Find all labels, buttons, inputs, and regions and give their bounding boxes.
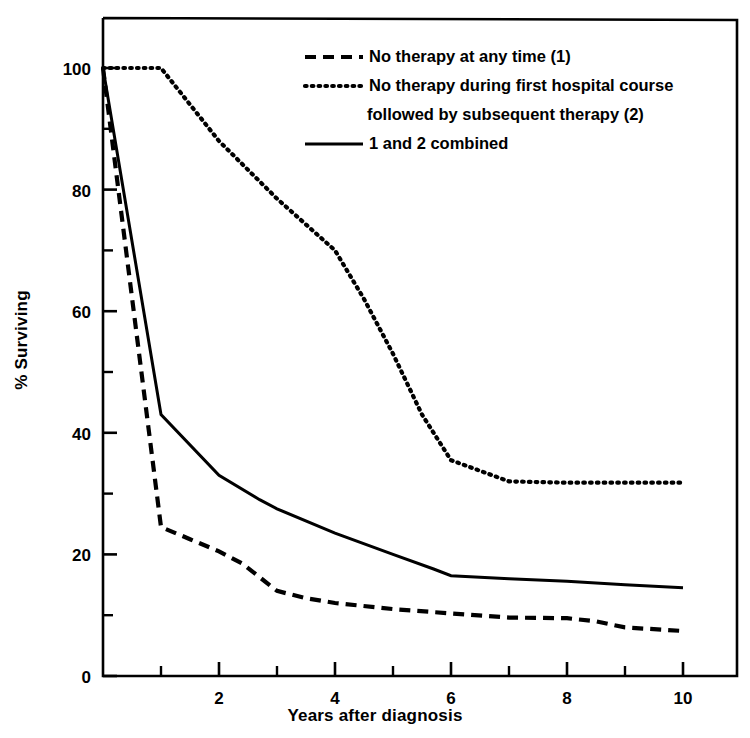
y-tick-label: 0 xyxy=(82,668,91,687)
chart-canvas: 020406080100 246810 No therapy at any ti… xyxy=(0,0,750,738)
legend-label-4: 1 and 2 combined xyxy=(369,134,508,152)
y-tick-label: 80 xyxy=(72,182,91,201)
series-line-2 xyxy=(103,68,683,483)
data-series-layer xyxy=(103,68,683,631)
y-axis-tick-labels: 020406080100 xyxy=(63,60,91,687)
legend-label-3: followed by subsequent therapy (2) xyxy=(367,105,644,123)
series-line-1 xyxy=(103,68,683,631)
legend-label-1: No therapy at any time (1) xyxy=(369,47,571,65)
y-axis-label: % Surviving xyxy=(12,290,31,390)
chart-legend: No therapy at any time (1)No therapy dur… xyxy=(305,47,673,152)
x-axis-label: Years after diagnosis xyxy=(0,706,750,726)
y-tick-label: 40 xyxy=(72,425,91,444)
y-tick-label: 60 xyxy=(72,303,91,322)
y-tick-label: 20 xyxy=(72,546,91,565)
y-tick-label: 100 xyxy=(63,60,91,79)
x-axis-ticks xyxy=(161,662,683,676)
y-axis-label-wrapper: % Surviving xyxy=(12,260,32,420)
legend-label-2: No therapy during first hospital course xyxy=(369,76,673,94)
survival-curve-figure: 020406080100 246810 No therapy at any ti… xyxy=(0,0,750,738)
